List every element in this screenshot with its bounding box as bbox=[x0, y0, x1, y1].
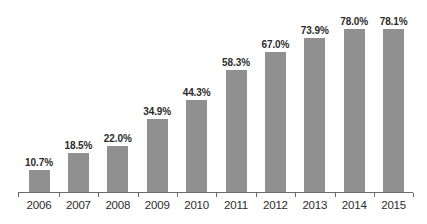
x-axis-label-2008: 2008 bbox=[105, 199, 130, 211]
bar-group: 44.3% bbox=[186, 100, 207, 192]
bar-group: 18.5% bbox=[68, 153, 89, 192]
bar-2009[interactable] bbox=[147, 119, 168, 192]
x-axis-line bbox=[18, 192, 413, 193]
bar-value-label: 10.7% bbox=[25, 157, 53, 168]
bar-value-label: 58.3% bbox=[222, 57, 250, 68]
bar-group: 73.9% bbox=[304, 38, 325, 192]
bar-value-label: 78.0% bbox=[340, 16, 368, 27]
axis-tick bbox=[413, 193, 414, 197]
x-axis-label-2013: 2013 bbox=[302, 199, 327, 211]
x-axis-label-2015: 2015 bbox=[381, 199, 406, 211]
x-axis-label-2007: 2007 bbox=[66, 199, 91, 211]
bar-group: 22.0% bbox=[107, 146, 128, 192]
bar-2007[interactable] bbox=[68, 153, 89, 192]
bar-2012[interactable] bbox=[265, 52, 286, 192]
bar-2006[interactable] bbox=[29, 170, 50, 192]
axis-tick bbox=[59, 193, 60, 197]
bar-2013[interactable] bbox=[304, 38, 325, 192]
axis-tick bbox=[177, 193, 178, 197]
axis-tick bbox=[335, 193, 336, 197]
bar-group: 67.0% bbox=[265, 52, 286, 192]
bar-value-label: 34.9% bbox=[143, 106, 171, 117]
bar-value-label: 44.3% bbox=[183, 87, 211, 98]
x-axis-label-2014: 2014 bbox=[342, 199, 367, 211]
x-axis-label-2010: 2010 bbox=[184, 199, 209, 211]
plot-area: 10.7%200618.5%200722.0%200834.9%200944.3… bbox=[0, 0, 427, 224]
axis-tick bbox=[295, 193, 296, 197]
bar-group: 10.7% bbox=[29, 170, 50, 192]
axis-tick bbox=[256, 193, 257, 197]
axis-tick bbox=[18, 193, 19, 197]
bar-value-label: 73.9% bbox=[301, 25, 329, 36]
bar-group: 78.0% bbox=[344, 29, 365, 192]
axis-tick bbox=[138, 193, 139, 197]
bar-2008[interactable] bbox=[107, 146, 128, 192]
axis-tick bbox=[98, 193, 99, 197]
x-axis-label-2011: 2011 bbox=[224, 199, 248, 211]
bar-group: 78.1% bbox=[383, 29, 404, 192]
x-axis-label-2012: 2012 bbox=[263, 199, 288, 211]
bar-group: 58.3% bbox=[226, 70, 247, 192]
bar-2014[interactable] bbox=[344, 29, 365, 192]
bar-value-label: 18.5% bbox=[64, 140, 92, 151]
bar-2011[interactable] bbox=[226, 70, 247, 192]
bar-value-label: 22.0% bbox=[104, 133, 132, 144]
x-axis-label-2009: 2009 bbox=[145, 199, 170, 211]
bar-value-label: 78.1% bbox=[380, 16, 408, 27]
x-axis-label-2006: 2006 bbox=[27, 199, 52, 211]
bar-chart: 10.7%200618.5%200722.0%200834.9%200944.3… bbox=[0, 0, 427, 224]
axis-tick bbox=[374, 193, 375, 197]
bar-2015[interactable] bbox=[383, 29, 404, 192]
bar-2010[interactable] bbox=[186, 100, 207, 192]
bar-value-label: 67.0% bbox=[261, 39, 289, 50]
axis-tick bbox=[216, 193, 217, 197]
bar-group: 34.9% bbox=[147, 119, 168, 192]
